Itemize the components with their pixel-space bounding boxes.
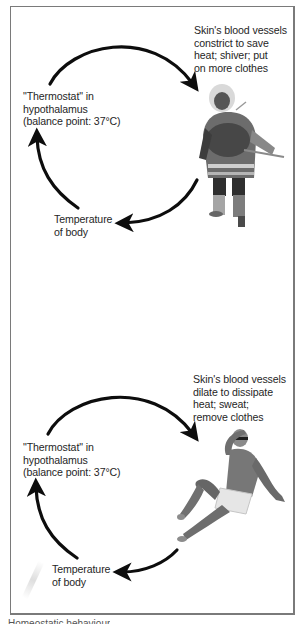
cold-thermostat-label: "Thermostat" in hypothalamus (balance po… xyxy=(23,90,121,128)
hot-effector-label: Skin's blood vessels dilate to dissipate… xyxy=(193,373,286,423)
hot-thermostat-label: "Thermostat" in hypothalamus (balance po… xyxy=(23,441,121,479)
hot-body-temperature-label: Temperature of body xyxy=(52,563,110,588)
cold-body-temperature-label: Temperature of body xyxy=(54,213,112,238)
cold-effector-label: Skin's blood vessels constrict to save h… xyxy=(194,24,287,74)
figure-caption: Homeostatic behaviour xyxy=(8,618,110,624)
